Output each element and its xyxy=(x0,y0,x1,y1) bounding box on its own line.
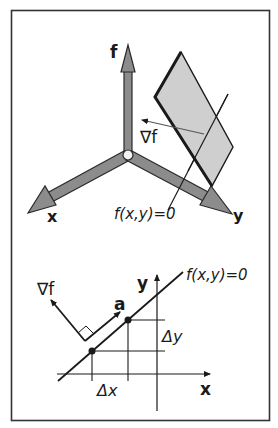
gradient-label: ∇f xyxy=(139,127,158,147)
point-upper xyxy=(125,317,132,324)
gradient-label-2d: ∇f xyxy=(36,279,55,299)
a-vector-label: a xyxy=(114,294,125,314)
x-axis-label-2d: x xyxy=(200,379,211,399)
delta-y-label: Δy xyxy=(160,327,183,346)
curve-label: f(x,y)=0 xyxy=(186,266,248,284)
surface-label: f(x,y)=0 xyxy=(114,205,176,223)
y-axis-label: y xyxy=(233,206,244,225)
y-axis-label-2d: y xyxy=(137,273,148,293)
x-axis-label: x xyxy=(47,207,58,226)
point-lower xyxy=(89,348,96,355)
delta-x-label: Δx xyxy=(95,381,118,400)
origin-junction xyxy=(123,150,133,160)
gradient-diagram: f x y ∇f f(x,y)=0 ∇f a y x f(x xyxy=(0,0,278,428)
f-axis-label: f xyxy=(110,42,118,62)
